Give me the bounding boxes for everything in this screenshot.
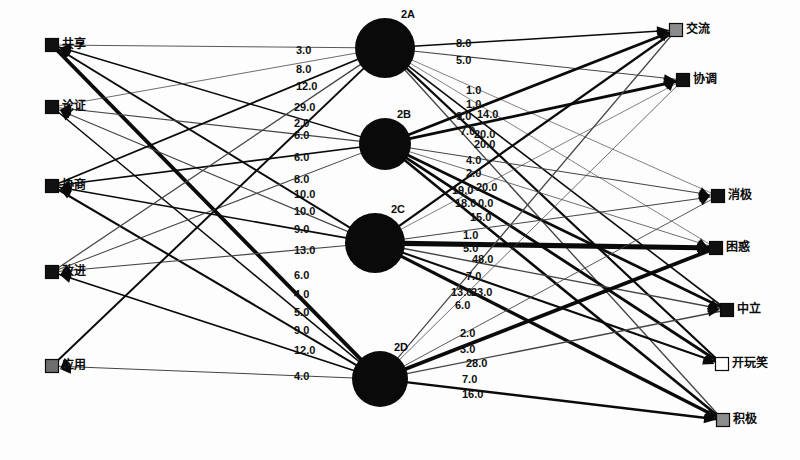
edge-weight-label: 16.0 bbox=[462, 389, 483, 400]
hub-node-2a[interactable] bbox=[355, 18, 415, 78]
node-marker-l3[interactable] bbox=[46, 180, 59, 193]
edge-weight-label: 14.0 bbox=[477, 109, 498, 120]
node-label-r1: 交流 bbox=[686, 23, 710, 35]
edge-weight-label: 29.0 bbox=[294, 102, 315, 113]
hub-label-2b: 2B bbox=[397, 109, 411, 120]
edge-weight-label: 20.0 bbox=[476, 182, 497, 193]
edge-weight-label: 2.0 bbox=[466, 168, 481, 179]
edge-weight-label: 9.0 bbox=[456, 111, 471, 122]
edge-weight-label: 3.0 bbox=[296, 45, 311, 56]
node-label-r4: 困惑 bbox=[726, 241, 750, 253]
node-marker-r3[interactable] bbox=[712, 190, 725, 203]
graph-edge bbox=[405, 67, 722, 364]
node-label-l4: 改进 bbox=[62, 265, 86, 277]
edge-weight-label: 15.0 bbox=[470, 212, 491, 223]
graph-edge bbox=[413, 30, 676, 46]
node-layer bbox=[46, 18, 734, 427]
edge-weight-label: 8.0 bbox=[456, 38, 471, 49]
node-label-r2: 协调 bbox=[693, 73, 717, 85]
node-label-r7: 积极 bbox=[733, 413, 757, 425]
edge-weight-label: 4.0 bbox=[294, 289, 309, 300]
graph-edge bbox=[413, 51, 683, 80]
node-marker-r4[interactable] bbox=[710, 242, 723, 255]
edge-weight-label: 7.0 bbox=[466, 271, 481, 282]
node-marker-l4[interactable] bbox=[46, 266, 59, 279]
graph-edge bbox=[407, 30, 676, 135]
edge-weight-label: 3.0 bbox=[460, 344, 475, 355]
node-marker-l5[interactable] bbox=[46, 360, 59, 373]
hub-label-2d: 2D bbox=[394, 342, 408, 353]
edge-weight-label: 7.0 bbox=[460, 126, 475, 137]
edge-weight-label: 8.0 bbox=[294, 174, 309, 185]
graph-edge bbox=[406, 382, 723, 420]
edge-weight-label: 18.0 bbox=[455, 198, 476, 209]
hub-node-2c[interactable] bbox=[345, 213, 405, 273]
edge-weight-label: 10.0 bbox=[294, 206, 315, 217]
edge-weight-label: 2.0 bbox=[460, 328, 475, 339]
edge-weight-label: 2.0 bbox=[294, 118, 309, 129]
hub-label-2a: 2A bbox=[401, 9, 415, 20]
edge-weight-label: 5.0 bbox=[294, 307, 309, 318]
edge-weight-label: 5.0 bbox=[456, 55, 471, 66]
edge-weight-label: 6.0 bbox=[294, 130, 309, 141]
node-marker-r5[interactable] bbox=[721, 304, 734, 317]
node-marker-l2[interactable] bbox=[46, 101, 59, 114]
edge-weight-label: 7.0 bbox=[462, 374, 477, 385]
node-marker-r2[interactable] bbox=[677, 74, 690, 87]
node-label-l2: 论证 bbox=[62, 100, 86, 112]
edge-weight-label: 6.0 bbox=[455, 300, 470, 311]
edge-weight-label: 9.0 bbox=[294, 325, 309, 336]
network-graph bbox=[0, 0, 800, 460]
edge-weight-label: 0.0 bbox=[478, 198, 493, 209]
node-label-r6: 开玩笑 bbox=[732, 357, 768, 369]
edge-weight-label: 1.0 bbox=[463, 230, 478, 241]
diagram-canvas: 共享论证协商改进应用交流协调消极困惑中立开玩笑积极2A2B2C2D3.08.01… bbox=[0, 0, 800, 460]
edge-weight-label: 12.0 bbox=[296, 81, 317, 92]
hub-node-2d[interactable] bbox=[352, 351, 408, 407]
graph-edge bbox=[403, 243, 716, 248]
graph-edge bbox=[406, 310, 727, 374]
edge-weight-label: 12.0 bbox=[294, 345, 315, 356]
node-label-r5: 中立 bbox=[737, 303, 761, 315]
edge-weight-label: 6.0 bbox=[294, 152, 309, 163]
node-marker-r6[interactable] bbox=[716, 358, 729, 371]
node-marker-r7[interactable] bbox=[717, 414, 730, 427]
hub-label-2c: 2C bbox=[391, 204, 405, 215]
node-label-l5: 应用 bbox=[62, 359, 86, 371]
edge-weight-label: 4.0 bbox=[294, 371, 309, 382]
graph-edge bbox=[52, 107, 360, 362]
hub-node-2b[interactable] bbox=[359, 118, 411, 170]
edge-weight-label: 1.0 bbox=[466, 85, 481, 96]
edge-weight-label: 4.0 bbox=[466, 155, 481, 166]
graph-edge bbox=[397, 30, 676, 359]
node-marker-r1[interactable] bbox=[670, 24, 683, 37]
edge-weight-label: 23.0 bbox=[471, 287, 492, 298]
edge-weight-label: 8.0 bbox=[296, 64, 311, 75]
edge-weight-label: 20.0 bbox=[474, 139, 495, 150]
node-label-r3: 消极 bbox=[728, 189, 752, 201]
edge-weight-label: 13.0 bbox=[294, 245, 315, 256]
edge-weight-label: 10.0 bbox=[294, 189, 315, 200]
edge-weight-label: 28.0 bbox=[466, 358, 487, 369]
node-marker-l1[interactable] bbox=[46, 39, 59, 52]
edge-weight-label: 9.0 bbox=[294, 224, 309, 235]
edge-weight-label: 13.0 bbox=[451, 287, 472, 298]
edge-weight-label: 48.0 bbox=[472, 254, 493, 265]
graph-edge bbox=[52, 45, 362, 360]
edge-weight-label: 6.0 bbox=[294, 270, 309, 281]
graph-edge bbox=[403, 196, 718, 239]
node-label-l1: 共享 bbox=[62, 38, 86, 50]
edge-weight-label: 19.0 bbox=[452, 185, 473, 196]
node-label-l3: 协商 bbox=[62, 179, 86, 191]
